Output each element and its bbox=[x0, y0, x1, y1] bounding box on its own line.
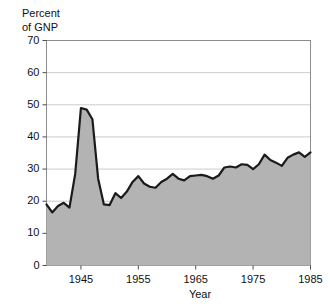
y-tick-label-50: 50 bbox=[14, 99, 40, 110]
data-area-series bbox=[47, 108, 311, 266]
y-tick-label-20: 20 bbox=[14, 195, 40, 206]
x-tick-label-1975: 1975 bbox=[233, 274, 273, 285]
y-axis-title-line-1: Percent bbox=[22, 6, 60, 20]
x-tick-label-1965: 1965 bbox=[176, 274, 216, 285]
y-axis-title: Percent of GNP bbox=[22, 6, 60, 34]
x-axis-title: Year bbox=[160, 289, 240, 300]
x-tick-label-1985: 1985 bbox=[291, 274, 330, 285]
y-tick-label-10: 10 bbox=[14, 227, 40, 238]
y-tick-label-40: 40 bbox=[14, 131, 40, 142]
y-tick-label-0: 0 bbox=[14, 260, 40, 271]
area-chart-plot bbox=[0, 0, 330, 308]
y-tick-label-60: 60 bbox=[14, 67, 40, 78]
area-fill bbox=[47, 108, 311, 266]
y-tick-label-70: 70 bbox=[14, 35, 40, 46]
y-tick-label-30: 30 bbox=[14, 163, 40, 174]
y-axis-title-line-2: of GNP bbox=[22, 20, 60, 34]
x-tick-label-1955: 1955 bbox=[118, 274, 158, 285]
chart-figure: Percent of GNP Year 010203040506070 1945… bbox=[0, 0, 330, 308]
x-tick-label-1945: 1945 bbox=[61, 274, 101, 285]
